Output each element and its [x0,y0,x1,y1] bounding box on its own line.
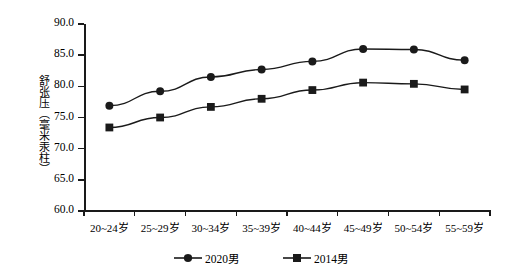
data-point-square[interactable] [258,95,266,103]
data-point-circle[interactable] [461,56,469,64]
chart-legend: 2020男 2014男 [0,250,522,266]
data-point-circle[interactable] [156,87,164,95]
legend-item-2014[interactable]: 2014男 [283,250,348,266]
data-point-circle[interactable] [258,66,266,74]
legend-label-2014: 2014男 [314,250,348,266]
series-2020男 [105,45,468,110]
legend-item-2020[interactable]: 2020男 [174,250,239,266]
diastolic-blood-pressure-line-chart: 舒张压（毫米汞柱） 90.085.080.075.070.065.060.0 2… [0,0,522,279]
data-point-circle[interactable] [410,46,418,54]
data-point-square[interactable] [359,79,367,87]
data-point-square[interactable] [207,103,215,111]
data-point-circle[interactable] [105,102,113,110]
series-line [109,49,464,106]
series-2014男 [105,79,468,132]
legend-square-marker-icon [283,252,311,264]
data-point-circle[interactable] [207,73,215,81]
legend-label-2020: 2020男 [205,250,239,266]
data-point-square[interactable] [410,80,418,88]
series-plot [0,0,522,279]
data-point-square[interactable] [105,124,113,132]
data-point-circle[interactable] [359,45,367,53]
data-point-circle[interactable] [308,57,316,65]
data-point-square[interactable] [308,86,316,94]
data-point-square[interactable] [461,86,469,94]
legend-circle-marker-icon [174,252,202,264]
data-point-square[interactable] [156,114,164,122]
